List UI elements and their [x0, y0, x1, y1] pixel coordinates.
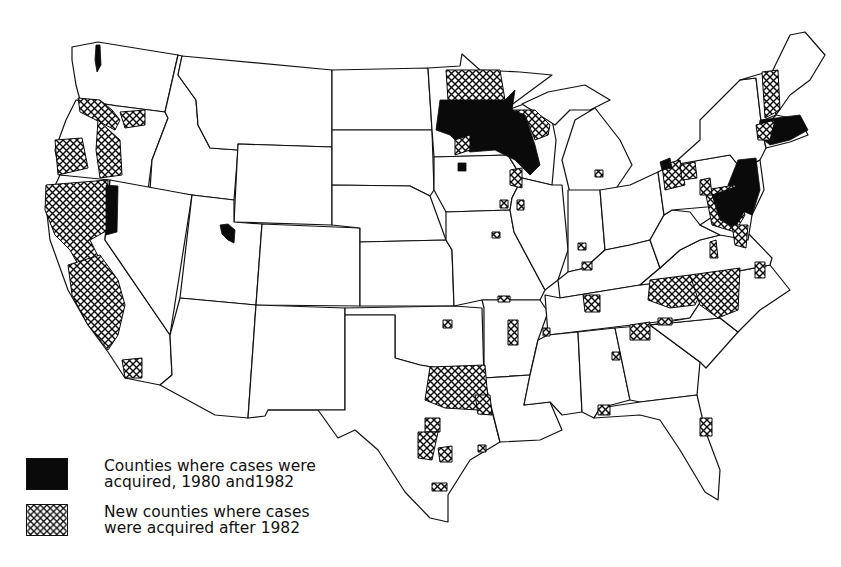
legend-label-solid: Counties where cases were acquired, 1980…: [104, 458, 316, 490]
solid-swatch-icon: [26, 458, 68, 490]
crosshatch-swatch-icon: [26, 504, 68, 536]
legend-item-hatched: New counties where cases were acquired a…: [26, 504, 446, 536]
legend-text-line: Counties where cases were: [104, 458, 316, 474]
legend-text-line: New counties where cases: [104, 504, 310, 520]
legend-item-solid: Counties where cases were acquired, 1980…: [26, 458, 446, 490]
legend-text-line: acquired, 1980 and1982: [104, 474, 316, 490]
legend-label-hatched: New counties where cases were acquired a…: [104, 504, 310, 536]
legend-text-line: were acquired after 1982: [104, 520, 310, 536]
legend: Counties where cases were acquired, 1980…: [26, 458, 446, 550]
